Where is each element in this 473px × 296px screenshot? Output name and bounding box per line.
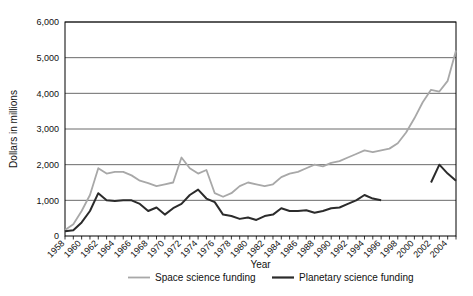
series-line — [431, 165, 456, 183]
x-axis-tick-label: 2000 — [395, 238, 416, 259]
y-axis-title: Dollars in millions — [8, 90, 19, 168]
x-axis-tick-label: 1978 — [212, 238, 233, 259]
x-axis-tick-label: 1972 — [162, 238, 183, 259]
y-axis-tick-label: 1,000 — [36, 196, 59, 206]
x-axis-tick-label: 1958 — [45, 238, 66, 259]
x-axis-tick-label: 1976 — [195, 238, 216, 259]
y-axis-tick-label: 2,000 — [36, 160, 59, 170]
y-gridlines: 01,0002,0003,0004,0005,0006,000 — [36, 17, 456, 241]
x-axis-tick-label: 1968 — [128, 238, 149, 259]
x-axis-tick-label: 1986 — [278, 238, 299, 259]
data-series-group — [65, 51, 456, 232]
x-axis-tick-label: 1980 — [228, 238, 249, 259]
funding-line-chart: 01,0002,0003,0004,0005,0006,000195819601… — [0, 0, 473, 296]
x-axis-ticks: 1958196019621964196619681970197219741976… — [45, 236, 456, 260]
x-axis-tick-label: 2002 — [411, 238, 432, 259]
x-axis-tick-label: 1970 — [145, 238, 166, 259]
x-axis-tick-label: 1994 — [345, 238, 366, 259]
x-axis-tick-label: 1992 — [328, 238, 349, 259]
x-axis-tick-label: 2004 — [428, 238, 449, 259]
x-axis-tick-label: 1990 — [311, 238, 332, 259]
y-axis-tick-label: 4,000 — [36, 89, 59, 99]
chart-canvas: 01,0002,0003,0004,0005,0006,000195819601… — [0, 0, 473, 296]
y-axis-tick-label: 3,000 — [36, 124, 59, 134]
x-axis-tick-label: 1996 — [361, 238, 382, 259]
chart-legend: Space science fundingPlanetary science f… — [128, 272, 414, 283]
x-axis-tick-label: 1962 — [78, 238, 99, 259]
y-axis-tick-label: 5,000 — [36, 53, 59, 63]
x-axis-tick-label: 1966 — [112, 238, 133, 259]
x-axis-tick-label: 1984 — [261, 238, 282, 259]
y-axis-tick-label: 6,000 — [36, 17, 59, 27]
x-axis-tick-label: 1974 — [178, 238, 199, 259]
x-axis-title: Year — [250, 259, 271, 270]
x-axis-tick-label: 1960 — [62, 238, 83, 259]
x-axis-tick-label: 1982 — [245, 238, 266, 259]
x-axis-tick-label: 1988 — [295, 238, 316, 259]
series-line — [65, 51, 456, 230]
x-axis-tick-label: 1998 — [378, 238, 399, 259]
legend-label: Space science funding — [155, 272, 256, 283]
x-axis-tick-label: 1964 — [95, 238, 116, 259]
legend-label: Planetary science funding — [299, 272, 414, 283]
